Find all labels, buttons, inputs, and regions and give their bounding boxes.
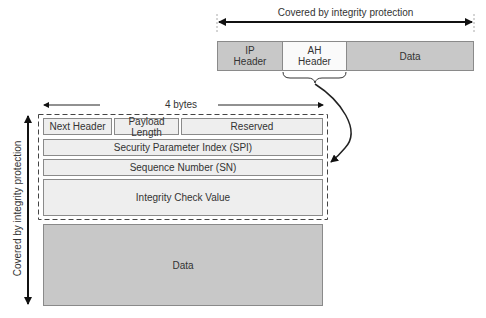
packet-data: Data — [346, 41, 474, 71]
top-coverage-label: Covered by integrity protection — [217, 7, 474, 18]
width-label: 4 bytes — [160, 99, 202, 110]
packet-ah-header: AH Header — [282, 41, 347, 71]
payload-data: Data — [43, 224, 323, 306]
vertical-coverage-label: Covered by integrity protection — [12, 139, 23, 279]
ip-header-line1: IP — [245, 45, 254, 56]
field-payload-length: Payload Length — [114, 118, 179, 135]
field-icv: Integrity Check Value — [43, 179, 323, 216]
field-next-header: Next Header — [43, 118, 112, 135]
field-spi: Security Parameter Index (SPI) — [43, 139, 323, 156]
ah-brace — [283, 72, 346, 83]
field-reserved: Reserved — [181, 118, 323, 135]
ip-header-line2: Header — [234, 56, 267, 67]
ah-header-line2: Header — [298, 56, 331, 67]
packet-ip-header: IP Header — [217, 41, 283, 71]
ah-header-line1: AH — [308, 45, 322, 56]
field-sequence-number: Sequence Number (SN) — [43, 159, 323, 176]
